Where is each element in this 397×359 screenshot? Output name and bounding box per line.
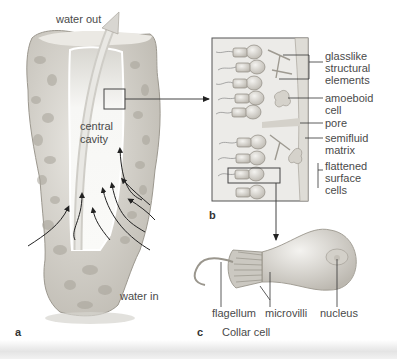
label-cell: cell — [325, 104, 342, 116]
collar-cell-caption: Collar cell — [222, 326, 270, 338]
label-central-cavity-1: central — [80, 120, 113, 132]
label-amoeboid: amoeboid — [325, 92, 373, 104]
label-surface: surface — [325, 172, 361, 184]
panel-letter-b: b — [209, 209, 216, 221]
label-matrix: matrix — [325, 144, 355, 156]
label-microvilli: microvilli — [265, 307, 307, 319]
label-glasslike: glasslike — [325, 50, 367, 62]
label-water-in: water in — [120, 290, 159, 302]
label-semifluid: semifluid — [325, 132, 368, 144]
label-flagellum: flagellum — [212, 307, 256, 319]
page-bottom-shadow — [0, 340, 397, 359]
label-water-out: water out — [56, 13, 101, 25]
label-pore: pore — [325, 117, 347, 129]
tissue-panel — [212, 38, 308, 241]
label-central-cavity-2: cavity — [80, 133, 108, 145]
panel-letter-c: c — [197, 326, 203, 338]
label-cells: cells — [325, 184, 347, 196]
label-elements: elements — [325, 74, 370, 86]
label-nucleus: nucleus — [320, 307, 358, 319]
panel-letter-a: a — [15, 326, 21, 338]
label-flattened: flattened — [325, 160, 367, 172]
label-structural: structural — [325, 62, 370, 74]
